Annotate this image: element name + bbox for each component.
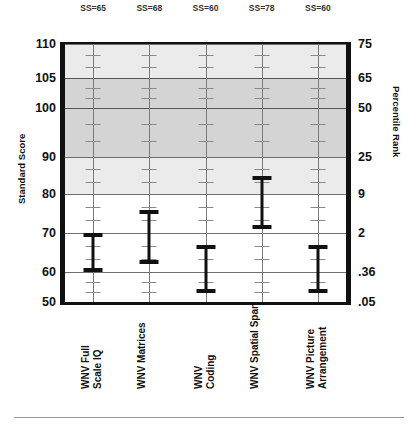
minor-tick [254, 292, 269, 293]
minor-tick [254, 98, 269, 99]
point-label: SS=68 [136, 3, 162, 13]
minor-tick [310, 98, 325, 99]
y-axis-ticklabel-right: 2 [358, 226, 365, 240]
chart-canvas: SS=65SS=68SS=60SS=78SS=60 Standard Score… [0, 0, 418, 433]
x-axis-category-label: Coding [205, 355, 217, 389]
minor-tick [86, 67, 101, 68]
errorbar-cap-lower [308, 289, 327, 293]
minor-tick [254, 124, 269, 125]
minor-tick [86, 207, 101, 208]
minor-tick [198, 124, 213, 125]
minor-tick [198, 169, 213, 170]
minor-tick [310, 182, 325, 183]
minor-tick [86, 124, 101, 125]
minor-tick [310, 55, 325, 56]
minor-tick [142, 88, 157, 89]
x-axis-category-label: Arrangement [317, 327, 329, 389]
minor-tick [86, 55, 101, 56]
minor-tick [310, 207, 325, 208]
minor-tick [86, 182, 101, 183]
y-axis-ticklabel-left: 60 [22, 265, 56, 279]
y-axis-ticklabel-left: 105 [22, 71, 56, 85]
minor-tick [142, 292, 157, 293]
minor-tick [86, 98, 101, 99]
errorbar-cap-lower [140, 260, 159, 264]
minor-tick [142, 55, 157, 56]
errorbar-line [148, 210, 151, 265]
minor-tick [86, 88, 101, 89]
errorbar-cap-lower [252, 225, 271, 229]
point-label: SS=65 [80, 3, 106, 13]
minor-tick [142, 282, 157, 283]
y-axis-ticklabel-right: 25 [358, 150, 372, 164]
minor-tick [254, 246, 269, 247]
point-label: SS=78 [249, 3, 275, 13]
errorbar-cap-upper [252, 176, 271, 180]
y-axis-ticklabel-right: 75 [358, 37, 372, 51]
minor-tick [142, 207, 157, 208]
errorbar-cap-upper [196, 245, 215, 249]
category-axis-line [262, 44, 263, 302]
y-axis-ticklabel-right: 9 [358, 187, 365, 201]
minor-tick [310, 88, 325, 89]
errorbar-line [92, 233, 95, 272]
x-axis-category-label: WNV Picture [305, 329, 317, 389]
errorbar-line [260, 176, 263, 230]
minor-tick [86, 282, 101, 283]
y-axis-ticklabel-left: 50 [22, 295, 56, 309]
minor-tick [198, 220, 213, 221]
minor-tick [142, 124, 157, 125]
minor-tick [310, 220, 325, 221]
minor-tick [310, 169, 325, 170]
plot-area [60, 42, 351, 305]
plot-inner [65, 44, 346, 302]
y-axis-ticklabel-left: 110 [22, 37, 56, 51]
minor-tick [254, 55, 269, 56]
x-axis-category-label: WNV [193, 366, 205, 389]
errorbar-cap-upper [140, 210, 159, 214]
minor-tick [198, 98, 213, 99]
minor-tick [254, 88, 269, 89]
y-axis-ticklabel-right: .05 [358, 295, 375, 309]
y-axis-ticklabel-left: 90 [22, 150, 56, 164]
minor-tick [254, 67, 269, 68]
minor-tick [198, 207, 213, 208]
minor-tick [142, 98, 157, 99]
minor-tick [198, 182, 213, 183]
minor-tick [86, 220, 101, 221]
errorbar-cap-upper [84, 233, 103, 237]
minor-tick [198, 55, 213, 56]
minor-tick [86, 141, 101, 142]
minor-tick [254, 141, 269, 142]
y-axis-ticklabel-right: 65 [358, 71, 372, 85]
y-axis-ticklabel-left: 70 [22, 226, 56, 240]
minor-tick [142, 169, 157, 170]
errorbar-cap-lower [196, 289, 215, 293]
minor-tick [254, 259, 269, 260]
errorbar-cap-upper [308, 245, 327, 249]
minor-tick [198, 141, 213, 142]
x-axis-category-label: WNV Spatial Span [249, 303, 261, 389]
y-axis-ticklabel-left: 80 [22, 187, 56, 201]
errorbar-line [204, 245, 207, 293]
minor-tick [86, 292, 101, 293]
y-axis-ticklabel-left: 100 [22, 101, 56, 115]
minor-tick [86, 169, 101, 170]
x-axis-category-label: Scale IQ [92, 350, 104, 389]
minor-tick [254, 169, 269, 170]
minor-tick [142, 141, 157, 142]
minor-tick [198, 88, 213, 89]
point-label: SS=60 [305, 3, 331, 13]
minor-tick [310, 124, 325, 125]
errorbar-cap-lower [84, 268, 103, 272]
y-axis-ticklabel-right: 50 [358, 101, 372, 115]
footer-rule [14, 417, 404, 418]
minor-tick [142, 182, 157, 183]
minor-tick [310, 67, 325, 68]
point-label: SS=60 [193, 3, 219, 13]
minor-tick [254, 282, 269, 283]
minor-tick [198, 67, 213, 68]
x-axis-category-label: WNV Full [80, 345, 92, 389]
minor-tick [142, 67, 157, 68]
y-axis-title-right: Percentile Rank [391, 86, 402, 157]
